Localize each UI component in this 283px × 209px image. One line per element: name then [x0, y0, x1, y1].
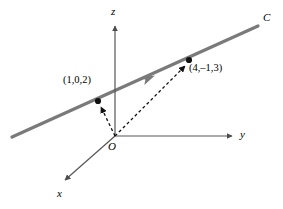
- point-dot-1: [95, 98, 101, 104]
- vector-to-point-1: [101, 107, 115, 136]
- point-label-1: (1,0,2): [63, 75, 91, 86]
- line-C-label: C: [263, 12, 270, 23]
- vector-line-diagram: z y x O C (1,0,2) (4,–1,3): [0, 0, 283, 209]
- x-axis-label: x: [57, 188, 62, 199]
- z-axis-label: z: [111, 6, 115, 17]
- point-label-2: (4,–1,3): [189, 63, 222, 74]
- diagram-canvas: [0, 0, 283, 209]
- line-C: [12, 26, 258, 137]
- y-axis-label: y: [240, 129, 245, 140]
- origin-label: O: [108, 141, 116, 152]
